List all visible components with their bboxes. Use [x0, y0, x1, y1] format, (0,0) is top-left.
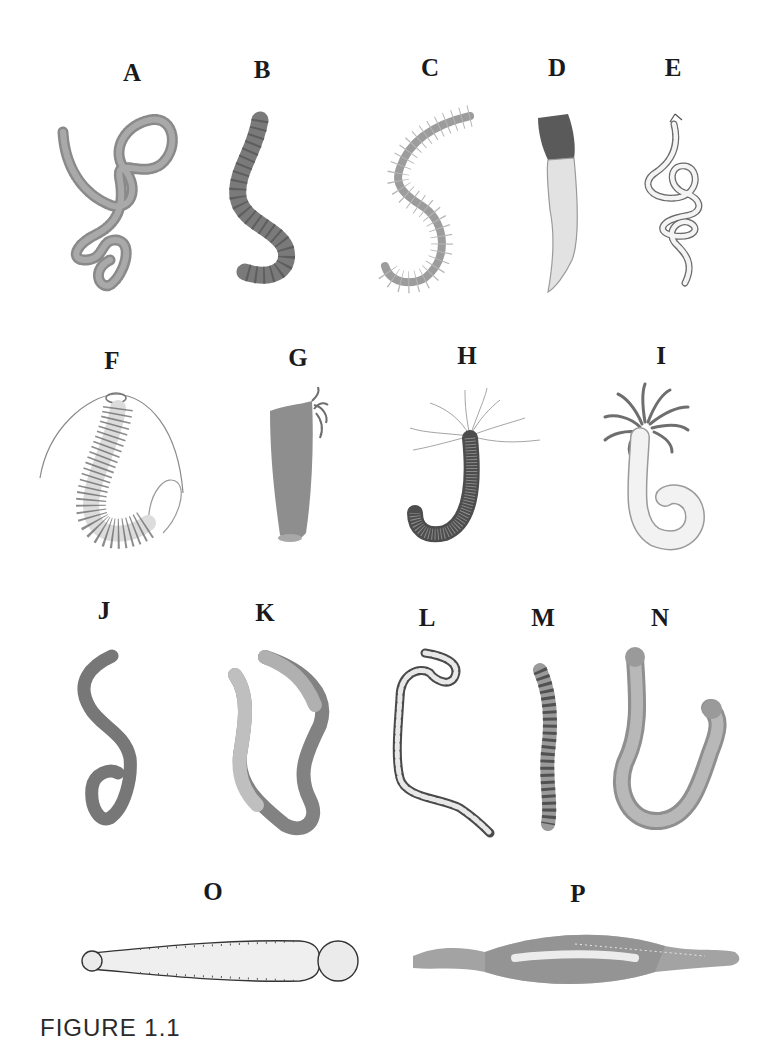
panel-label-f: F — [104, 348, 119, 373]
panel-label-g: G — [288, 345, 307, 370]
panel-label-o: O — [203, 879, 222, 904]
specimen-d — [530, 110, 590, 295]
specimen-h — [405, 388, 545, 548]
panel-label-d: D — [548, 55, 566, 80]
specimen-p — [405, 928, 745, 988]
specimen-l — [390, 648, 500, 838]
panel-label-h: H — [457, 343, 476, 368]
specimen-g — [268, 383, 343, 548]
specimen-n — [610, 643, 730, 838]
panel-label-l: L — [419, 605, 436, 630]
panel-label-p: P — [570, 881, 585, 906]
panel-label-k: K — [255, 600, 274, 625]
panel-label-b: B — [254, 57, 271, 82]
specimen-c — [370, 108, 490, 293]
panel-label-m: M — [531, 605, 555, 630]
specimen-i — [600, 382, 720, 552]
panel-label-a: A — [123, 60, 141, 85]
panel-label-i: I — [656, 343, 666, 368]
specimen-j — [70, 648, 160, 833]
panel-label-c: C — [421, 55, 439, 80]
specimen-a — [55, 110, 185, 295]
panel-label-e: E — [665, 55, 682, 80]
specimen-f — [38, 388, 188, 548]
specimen-b — [220, 112, 315, 292]
panel-label-j: J — [98, 598, 111, 623]
specimen-m — [530, 662, 575, 832]
specimen-k — [205, 645, 335, 837]
panel-label-n: N — [651, 605, 669, 630]
specimen-e — [640, 108, 720, 293]
specimen-o — [80, 935, 360, 987]
figure-caption: FIGURE 1.1 — [40, 1016, 181, 1040]
